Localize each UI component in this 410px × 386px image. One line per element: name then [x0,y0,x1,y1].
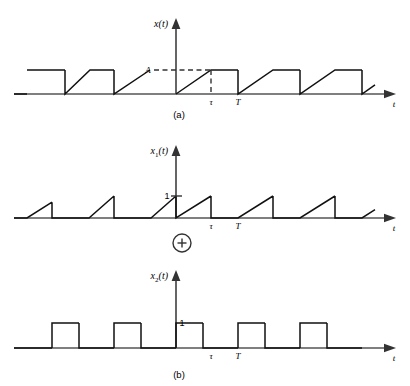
plot-x2-tick-T: T [235,351,241,361]
plot-x2-waveform [14,323,362,348]
plot-x1-xlabel: t [393,223,396,233]
plot-a-tick-tau: τ [209,97,213,107]
plot-a-tick-T: T [235,97,241,107]
plot-x2-axis-title: x2(t) [150,270,169,284]
plot-x2-xlabel: t [393,353,396,363]
plot-x1-tick-tau: τ [209,221,213,231]
caption-b: (b) [173,369,185,380]
plot-a-waveform [14,70,375,94]
signal-decomposition-figure: x(t)tAτTx1(t)t1τTx2(t)t1τT(a)(b) [0,0,410,386]
caption-a: (a) [173,109,185,120]
plot-x2-y-axis-arrowhead [172,270,181,281]
plot-a-y-axis-arrowhead [172,18,181,29]
plot-group-plot-x2: x2(t)t1τT [14,270,396,363]
figure-canvas: x(t)tAτTx1(t)t1τTx2(t)t1τT(a)(b) [0,0,410,386]
plot-group-plot-x1: x1(t)t1τT [14,145,396,233]
plot-x2-level-1: 1 [179,318,184,328]
plot-a-axis-title: x(t) [153,18,169,30]
plot-x2-t-axis-arrowhead [384,344,396,352]
plot-group-plot-a: x(t)tAτT [14,18,396,109]
plot-x1-t-axis-arrowhead [384,214,396,222]
plot-x1-tick-T: T [235,221,241,231]
plot-a-t-axis-arrowhead [384,90,396,98]
plot-x2-tick-tau: τ [209,351,213,361]
plot-x1-axis-title: x1(t) [150,145,169,159]
plot-a-level-A: A [144,65,151,75]
plot-a-xlabel: t [393,99,396,109]
plot-x1-waveform [14,196,375,218]
plot-x1-level-1: 1 [164,191,169,201]
plot-x1-y-axis-arrowhead [172,145,181,156]
plus-operator [173,234,191,252]
